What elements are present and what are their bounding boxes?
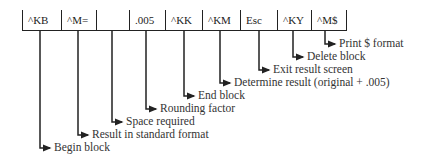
label-result-standard-format: Result in standard format — [92, 128, 209, 140]
label-exit-result-screen: Exit result screen — [273, 63, 353, 75]
label-delete-block: Delete block — [307, 50, 365, 62]
label-print-format: Print $ format — [339, 37, 404, 49]
label-begin-block: Begin block — [54, 141, 110, 153]
label-determine-result: Determine result (original + .005) — [234, 76, 390, 88]
label-rounding-factor: Rounding factor — [160, 102, 235, 114]
label-space-required: Space required — [126, 115, 195, 127]
label-end-block: End block — [198, 89, 245, 101]
